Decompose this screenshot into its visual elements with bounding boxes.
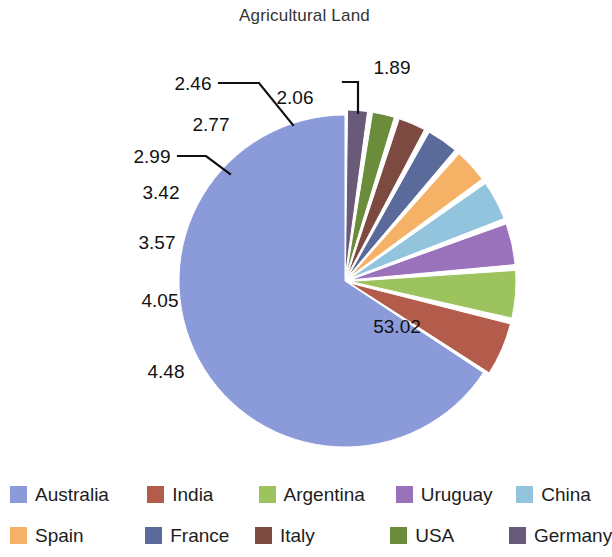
legend: Australia India Argentina Uruguay China (0, 474, 609, 557)
legend-swatch-usa (390, 527, 407, 544)
legend-item-germany[interactable]: Germany (509, 526, 609, 545)
slice-value-australia: 53.02 (373, 316, 421, 337)
legend-row-2: Spain France Italy USA Germany (0, 515, 609, 556)
legend-label-germany: Germany (534, 526, 612, 545)
slice-value-germany: 1.89 (374, 57, 411, 78)
legend-label-australia: Australia (35, 485, 109, 504)
slice-value-italy: 2.46 (175, 73, 212, 94)
leader-line-germany (343, 82, 358, 113)
legend-swatch-germany (509, 527, 526, 544)
legend-row-1: Australia India Argentina Uruguay China (0, 474, 609, 515)
legend-item-argentina[interactable]: Argentina (259, 485, 396, 504)
legend-label-uruguay: Uruguay (421, 485, 493, 504)
slice-value-usa: 2.06 (277, 87, 314, 108)
legend-label-china: China (541, 485, 591, 504)
legend-swatch-argentina (259, 486, 276, 503)
legend-label-spain: Spain (35, 526, 84, 545)
slice-value-india: 4.48 (148, 361, 185, 382)
legend-label-argentina: Argentina (284, 485, 365, 504)
slice-value-china: 3.42 (143, 182, 180, 203)
legend-item-china[interactable]: China (516, 485, 609, 504)
legend-item-usa[interactable]: USA (390, 526, 509, 545)
slice-value-uruguay: 3.57 (139, 232, 176, 253)
legend-item-uruguay[interactable]: Uruguay (396, 485, 517, 504)
legend-item-italy[interactable]: Italy (255, 526, 390, 545)
legend-label-italy: Italy (280, 526, 315, 545)
legend-swatch-china (516, 486, 533, 503)
legend-swatch-spain (10, 527, 27, 544)
legend-item-spain[interactable]: Spain (10, 526, 145, 545)
legend-item-india[interactable]: India (147, 485, 258, 504)
legend-swatch-uruguay (396, 486, 413, 503)
legend-item-france[interactable]: France (145, 526, 255, 545)
slice-value-argentina: 4.05 (142, 290, 179, 311)
legend-swatch-italy (255, 527, 272, 544)
slice-value-france: 2.77 (193, 114, 230, 135)
slice-value-spain: 2.99 (134, 146, 171, 167)
legend-swatch-india (147, 486, 164, 503)
legend-swatch-france (145, 527, 162, 544)
legend-item-australia[interactable]: Australia (10, 485, 147, 504)
legend-swatch-australia (10, 486, 27, 503)
legend-label-usa: USA (415, 526, 454, 545)
legend-label-india: India (172, 485, 213, 504)
legend-label-france: France (170, 526, 229, 545)
pie-slices-group (179, 110, 516, 447)
